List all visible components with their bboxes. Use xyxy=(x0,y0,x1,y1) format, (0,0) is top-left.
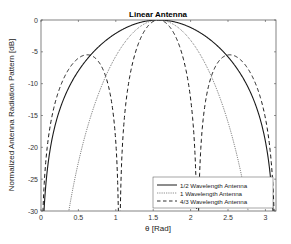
x-tick-label: 1 xyxy=(114,214,118,221)
y-tick-label: -25 xyxy=(28,176,38,183)
y-tick-label: -10 xyxy=(28,80,38,87)
x-tick-label: 2 xyxy=(189,214,193,221)
chart-title: Linear Antenna xyxy=(129,10,187,19)
y-tick-label: -30 xyxy=(28,208,38,215)
y-tick-label: -15 xyxy=(28,112,38,119)
y-tick-label: -5 xyxy=(32,48,38,55)
y-axis-label: Normalized Antenna Radiation Pattern [dB… xyxy=(7,39,16,192)
x-axis-label: θ [Rad] xyxy=(145,224,171,233)
x-tick-label: 1.5 xyxy=(148,214,158,221)
svg-text:4/3 Wavelength Antenna: 4/3 Wavelength Antenna xyxy=(180,198,248,205)
x-tick-label: 0 xyxy=(39,214,43,221)
svg-text:1/2 Wavelength Antenna: 1/2 Wavelength Antenna xyxy=(180,182,248,189)
y-tick-label: 0 xyxy=(34,17,38,24)
chart: Linear Antenna 00.511.522.53 0-5-10-15-2… xyxy=(0,0,291,244)
x-tick-label: 2.5 xyxy=(223,214,233,221)
y-tick-label: -20 xyxy=(28,144,38,151)
legend: 1/2 Wavelength Antenna 1 Wavelength Ante… xyxy=(153,177,273,208)
svg-text:1 Wavelength Antenna: 1 Wavelength Antenna xyxy=(180,190,243,197)
x-tick-label: 3 xyxy=(263,214,267,221)
x-tick-label: 0.5 xyxy=(74,214,84,221)
